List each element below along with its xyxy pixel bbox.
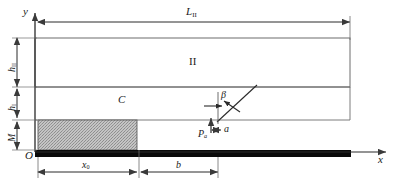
crack-length-label: a — [224, 124, 229, 134]
figure-canvas: y x O LII hII hI M II C β a Pa x0 b — [0, 0, 395, 189]
dimension-x0-subscript: 0 — [86, 163, 89, 170]
height-lower-label: hI — [7, 104, 18, 111]
region-upper-label: II — [189, 56, 196, 67]
rigid-base-bar — [35, 150, 351, 157]
height-upper-label: hII — [7, 63, 18, 72]
load-label: Pa — [198, 129, 207, 140]
total-length-subscript: II — [192, 11, 197, 18]
y-axis-label: y — [23, 6, 28, 17]
x-axis-label: x — [378, 154, 383, 165]
load-subscript: a — [204, 132, 207, 139]
height-lower-symbol: h — [6, 106, 17, 111]
height-upper-subscript: II — [10, 63, 17, 67]
region-lower-label: C — [118, 94, 125, 105]
origin-label: O — [25, 150, 33, 161]
dimension-b-label: b — [176, 160, 181, 170]
schematic-drawing — [0, 0, 395, 189]
height-upper-symbol: h — [6, 67, 17, 72]
dimension-x0-label: x0 — [82, 160, 90, 171]
loaded-block — [38, 120, 137, 150]
block-height-label: M — [7, 134, 17, 142]
height-lower-subscript: I — [10, 104, 17, 106]
total-length-label: LII — [186, 6, 197, 18]
crack-angle-label: β — [221, 90, 226, 100]
